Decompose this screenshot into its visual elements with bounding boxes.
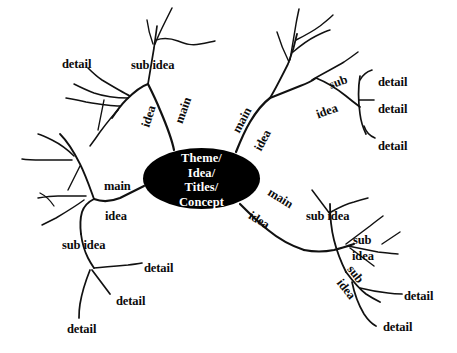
branch-lower-left-detail-3 xyxy=(79,270,90,318)
branch-upper-left-idea-fork-d xyxy=(90,110,118,146)
label-ur-detail-1: detail xyxy=(378,76,407,89)
branch-lower-right-node xyxy=(304,244,354,252)
label-ll-sub-idea: sub idea xyxy=(62,239,105,252)
label-ll-detail-1: detail xyxy=(144,262,173,275)
label-ul-detail: detail xyxy=(62,58,91,71)
label-lr-detail-1: detail xyxy=(404,290,433,303)
label-lr-detail-2: detail xyxy=(383,321,412,334)
branch-lower-left-node xyxy=(80,199,94,234)
label-lr-sub: sub xyxy=(353,234,371,247)
branch-lower-right-main xyxy=(240,204,304,250)
label-lr-sub-idea: sub idea xyxy=(306,210,349,223)
branch-lower-left-upfork-b xyxy=(22,159,72,160)
label-ll-main: main xyxy=(104,180,131,193)
branch-lower-left-upstem xyxy=(60,134,94,199)
label-ur-detail-3: detail xyxy=(378,140,407,153)
branch-upper-right-detail-node xyxy=(359,76,367,134)
label-ul-sub-idea: sub idea xyxy=(131,59,174,72)
branch-upper-left-idea-fork-a xyxy=(88,68,130,96)
branch-lower-left-detail-2 xyxy=(92,270,110,294)
branch-lower-right-sub-cross-d xyxy=(382,232,400,244)
label-ll-idea: idea xyxy=(105,210,127,223)
branch-upper-left-subidea-fork-c xyxy=(147,20,153,44)
branch-upper-right-detail-1 xyxy=(360,70,372,80)
branch-lower-left-upfork-c xyxy=(68,166,80,190)
label-ur-detail-2: detail xyxy=(378,103,407,116)
label-lr-idea2: idea xyxy=(352,250,374,263)
central-node-label: Theme/ Idea/ Titles/ Concept xyxy=(143,151,260,209)
branch-upper-left-subidea-fork-b xyxy=(156,39,215,45)
label-ll-detail-3: detail xyxy=(67,323,96,336)
label-ll-detail-2: detail xyxy=(116,295,145,308)
branch-upper-right-upfork-c xyxy=(277,32,289,62)
branch-lower-left-detail-1 xyxy=(94,263,142,268)
branch-upper-left-idea-fork-c xyxy=(66,98,120,106)
branch-upper-right-idea xyxy=(270,78,316,98)
mind-map-diagram: Theme/ Idea/ Titles/ Concept detailsub i… xyxy=(0,0,457,353)
branch-lower-left-midfork-c xyxy=(40,193,54,206)
branch-lower-left-midfork-b xyxy=(42,200,84,225)
branch-upper-right-upfork-b xyxy=(293,30,330,52)
